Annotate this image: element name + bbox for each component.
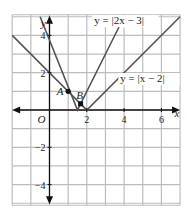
tick-labels: 24642−2−4Oxy (35, 17, 180, 191)
x-tick-label: 4 (122, 114, 127, 125)
graph: 24642−2−4Oxy y = |2x − 3|y = |x − 2|AB (0, 0, 187, 215)
plot-lines (12, 17, 180, 110)
point-b-label: B (76, 89, 83, 101)
axes (12, 16, 180, 205)
point-a-label: A (56, 85, 64, 97)
x-tick-label: 6 (159, 114, 164, 125)
y-tick-label: −2 (35, 142, 46, 153)
y-tick-label: 4 (41, 30, 46, 41)
series-line (12, 17, 180, 110)
x-axis-arrow-left-icon (12, 107, 20, 114)
point-b-marker (78, 101, 83, 106)
y-tick-label: 2 (41, 68, 46, 79)
y-tick-label: −4 (35, 180, 46, 191)
point-a-marker (66, 89, 71, 94)
origin-label: O (38, 113, 46, 125)
equation-label: y = |x − 2| (120, 72, 164, 84)
x-axis-label: x (174, 107, 180, 119)
y-axis-label: y (40, 17, 46, 29)
equation-label: y = |2x − 3| (94, 14, 144, 26)
x-tick-label: 2 (84, 114, 89, 125)
